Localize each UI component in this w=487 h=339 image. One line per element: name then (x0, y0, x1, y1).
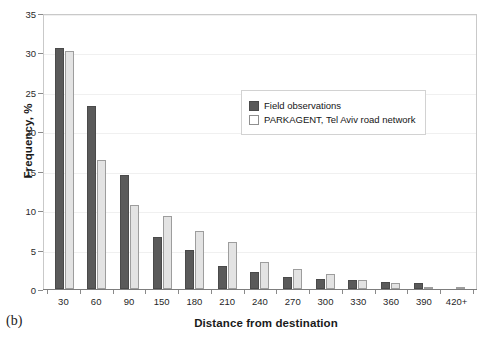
bar (381, 282, 390, 289)
legend-swatch-field-observations (249, 101, 259, 111)
y-tick-label: 15 (0, 166, 36, 177)
bar-group (81, 15, 114, 289)
x-tick-label: 420+ (440, 296, 473, 307)
x-axis-title: Distance from destination (56, 317, 476, 329)
x-tick-label: 60 (80, 296, 113, 307)
bar (283, 277, 292, 289)
bar (153, 237, 162, 289)
y-tick-label: 10 (0, 206, 36, 217)
bar (260, 262, 269, 289)
y-tick-label: 25 (0, 87, 36, 98)
bar (218, 266, 227, 289)
bar (195, 231, 204, 289)
bar-group (341, 15, 374, 289)
bar-group (374, 15, 407, 289)
bar (185, 250, 194, 289)
x-tick-label: 150 (145, 296, 178, 307)
x-tick-label: 180 (178, 296, 211, 307)
bar (97, 160, 106, 289)
bar (65, 51, 74, 289)
x-tick-label: 360 (375, 296, 408, 307)
legend-label: Field observations (264, 100, 341, 111)
bar-group (48, 15, 81, 289)
bar-group (244, 15, 277, 289)
bar (228, 242, 237, 289)
legend-swatch-parkagent (249, 115, 259, 125)
bar (348, 280, 357, 289)
panel-label: (b) (6, 313, 22, 329)
legend: Field observations PARKAGENT, Tel Aviv r… (241, 90, 426, 135)
bar-group (211, 15, 244, 289)
bar (326, 274, 335, 289)
bar (130, 205, 139, 289)
figure-panel-b: Frequency, % 05101520253035 Field observ… (0, 0, 487, 339)
x-tick-label: 210 (211, 296, 244, 307)
x-tick-label: 390 (407, 296, 440, 307)
bar-group (146, 15, 179, 289)
bar (55, 48, 64, 289)
y-tick-label: 20 (0, 127, 36, 138)
x-tick-label: 300 (309, 296, 342, 307)
bar-group (407, 15, 440, 289)
bar (358, 280, 367, 289)
bar-group (113, 15, 146, 289)
x-axis-tick-labels: 306090150180210240270300330360390420+ (43, 296, 477, 307)
y-tick-label: 0 (0, 285, 36, 296)
legend-item: PARKAGENT, Tel Aviv road network (249, 114, 416, 125)
x-tick-label: 270 (276, 296, 309, 307)
bar (250, 272, 259, 289)
y-tick-label: 35 (0, 9, 36, 20)
bar-group (276, 15, 309, 289)
bar (316, 279, 325, 289)
plot-area: Field observations PARKAGENT, Tel Aviv r… (43, 14, 477, 290)
bar-group (309, 15, 342, 289)
y-tick-label: 30 (0, 48, 36, 59)
x-tick-label: 30 (47, 296, 80, 307)
x-tick-label: 240 (244, 296, 277, 307)
bar (87, 106, 96, 289)
x-tick-label: 90 (113, 296, 146, 307)
legend-item: Field observations (249, 100, 416, 111)
bar-group (178, 15, 211, 289)
x-tick-label: 330 (342, 296, 375, 307)
bar (163, 216, 172, 289)
bar-groups (44, 15, 476, 289)
bar (120, 175, 129, 289)
legend-label: PARKAGENT, Tel Aviv road network (264, 114, 416, 125)
bar-group (439, 15, 472, 289)
y-tick-label: 5 (0, 245, 36, 256)
y-axis-tick-labels: 05101520253035 (0, 14, 43, 290)
bar (293, 269, 302, 290)
